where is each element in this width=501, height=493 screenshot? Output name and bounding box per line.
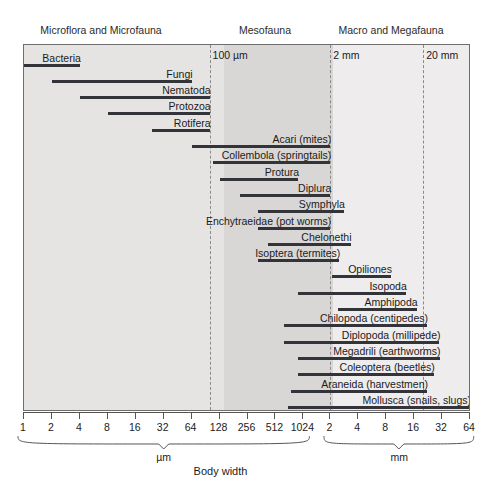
um-1-label: 1 [20, 421, 26, 433]
um-64-label: 64 [185, 421, 197, 433]
taxa-label-16: Amphipoda [364, 296, 417, 308]
taxa-label-4: Protozoa [169, 100, 211, 112]
taxa-range-bar-1 [24, 64, 80, 67]
um-brace-label: µm [156, 451, 171, 463]
mm-16-label: 16 [407, 421, 419, 433]
um-32-label: 32 [157, 421, 169, 433]
um-16-label: 16 [129, 421, 141, 433]
um-2-label: 2 [48, 421, 54, 433]
taxa-label-5: Rotifera [174, 117, 211, 129]
taxa-range-bar-4 [108, 112, 210, 115]
taxa-range-bar-22 [288, 406, 470, 409]
taxa-label-13: Isoptera (termites) [255, 247, 340, 259]
mm-64-label: 64 [463, 421, 475, 433]
taxa-range-bar-11 [258, 227, 331, 230]
zone-header-3: Macro and Megafauna [338, 24, 443, 36]
um-256-tick [247, 413, 248, 419]
taxa-label-15: Isopoda [369, 280, 406, 292]
um-8-tick [107, 413, 108, 419]
um-1024-tick [302, 413, 303, 419]
taxa-label-21: Araneida (harvestmen) [321, 378, 428, 390]
taxa-label-1: Bacteria [42, 52, 81, 64]
taxa-range-bar-13 [258, 259, 340, 262]
taxa-label-20: Coleoptera (beetles) [340, 361, 435, 373]
um-512-label: 512 [266, 421, 284, 433]
taxa-range-bar-15 [298, 292, 406, 295]
zone-header-1: Microflora and Microfauna [40, 24, 161, 36]
um-8-label: 8 [104, 421, 110, 433]
plot-area: 100 µm2 mm20 mm BacteriaFungiNematodaPro… [23, 44, 470, 411]
um-1-tick [23, 413, 24, 419]
boundary-label-3: 20 mm [426, 49, 458, 61]
taxa-label-3: Nematoda [162, 84, 210, 96]
um-64-tick [191, 413, 192, 419]
mm-32-label: 32 [435, 421, 447, 433]
mm-16-tick [413, 413, 414, 419]
taxa-label-2: Fungi [166, 68, 192, 80]
mm-4-label: 4 [354, 421, 360, 433]
taxa-label-10: Symphyla [299, 198, 345, 210]
taxa-range-bar-9 [240, 194, 331, 197]
taxa-range-bar-21 [291, 390, 427, 393]
taxa-label-22: Mollusca (snails, slugs) [362, 394, 470, 406]
um-4-label: 4 [76, 421, 82, 433]
taxa-range-bar-5 [152, 129, 210, 132]
taxa-range-bar-12 [268, 243, 350, 246]
um-brace [17, 435, 310, 451]
boundary-label-1: 100 µm [213, 49, 248, 61]
taxa-range-bar-10 [258, 210, 344, 213]
zone-header-2: Mesofauna [239, 24, 291, 36]
um-1024-label: 1024 [291, 421, 314, 433]
taxa-label-18: Diplopoda (millipede) [342, 329, 441, 341]
taxa-range-bar-20 [298, 373, 434, 376]
um-32-tick [163, 413, 164, 419]
um-2-tick [51, 413, 52, 419]
taxa-range-bar-16 [338, 308, 417, 311]
boundary-line-2 [330, 45, 331, 410]
taxa-label-11: Enchytraeidae (pot worms) [206, 215, 331, 227]
soil-organism-body-width-chart: Microflora and MicrofaunaMesofaunaMacro … [0, 0, 501, 493]
mm-32-tick [441, 413, 442, 419]
mm-2-tick [329, 413, 330, 419]
taxa-label-6: Acari (mites) [272, 133, 331, 145]
taxa-label-8: Protura [265, 166, 299, 178]
taxa-label-17: Chilopoda (centipedes) [320, 312, 428, 324]
taxa-range-bar-6 [192, 145, 331, 148]
um-128-tick [219, 413, 220, 419]
mm-8-tick [385, 413, 386, 419]
mm-brace [323, 435, 475, 451]
um-256-label: 256 [238, 421, 256, 433]
um-16-tick [135, 413, 136, 419]
taxa-range-bar-7 [213, 161, 330, 164]
taxa-range-bar-14 [332, 275, 391, 278]
mm-8-label: 8 [382, 421, 388, 433]
mm-4-tick [357, 413, 358, 419]
taxa-label-14: Opiliones [348, 263, 392, 275]
mm-brace-label: mm [390, 451, 408, 463]
taxa-label-7: Collembola (springtails) [222, 149, 332, 161]
taxa-range-bar-18 [284, 341, 439, 344]
taxa-label-12: Chelonethi [301, 231, 351, 243]
taxa-range-bar-8 [220, 178, 299, 181]
boundary-label-2: 2 mm [333, 49, 359, 61]
taxa-range-bar-3 [80, 96, 210, 99]
mm-2-label: 2 [326, 421, 332, 433]
taxa-range-bar-17 [284, 324, 427, 327]
taxa-range-bar-2 [52, 80, 192, 83]
axis-title: Body width [194, 465, 248, 477]
taxa-range-bar-19 [298, 357, 439, 360]
um-4-tick [79, 413, 80, 419]
mm-64-tick [469, 413, 470, 419]
um-128-label: 128 [210, 421, 228, 433]
taxa-label-19: Megadrili (earthworms) [333, 345, 440, 357]
taxa-label-9: Diplura [298, 182, 331, 194]
um-512-tick [274, 413, 275, 419]
